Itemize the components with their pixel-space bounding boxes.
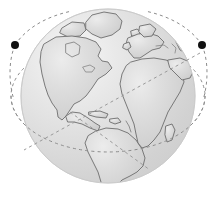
- orbit-node-left-lower-cusp: [10, 45, 15, 100]
- orbit-node-left[interactable]: [11, 41, 19, 49]
- earth-globe: [21, 9, 198, 194]
- globe-orbit-canvas: [0, 0, 219, 205]
- orbit-node-right[interactable]: [198, 41, 206, 49]
- globe-orbit-figure: Earth globe with dashed orbital paths: [0, 0, 219, 205]
